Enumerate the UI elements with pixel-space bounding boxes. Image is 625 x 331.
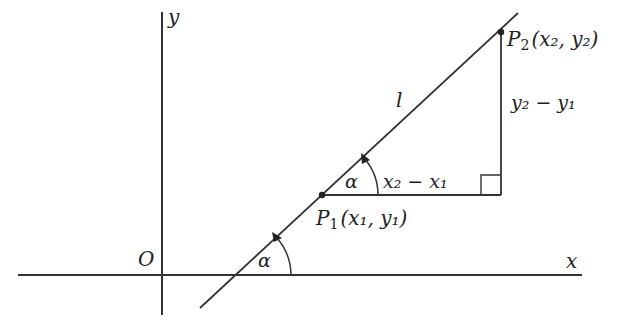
- vertical-leg-label: y₂ − y₁: [510, 91, 576, 113]
- angle-label-top: α: [345, 170, 358, 192]
- right-angle-marker: [481, 175, 501, 195]
- line-l: [200, 13, 518, 308]
- point-p1-label: P1(x₁, y₁): [315, 206, 407, 232]
- p2-subscript: 2: [520, 37, 529, 53]
- origin-label: O: [138, 247, 154, 271]
- p1-coords: (x₁, y₁): [340, 206, 407, 230]
- angle-arc-top: [364, 158, 378, 195]
- line-slope-diagram: y x O l α α x₂ − x₁ y₂ − y₁ P1(x₁, y₁) P…: [0, 0, 625, 331]
- p2-coords: (x₂, y₂): [531, 27, 598, 51]
- x-axis-label: x: [566, 249, 577, 273]
- p1-letter: P: [315, 206, 330, 230]
- angle-arc-bottom: [276, 237, 291, 275]
- point-p2: [498, 29, 504, 35]
- y-axis-label: y: [167, 5, 180, 29]
- point-p1: [319, 192, 325, 198]
- horizontal-leg-label: x₂ − x₁: [383, 170, 448, 192]
- p1-subscript: 1: [329, 216, 338, 232]
- point-p2-label: P2(x₂, y₂): [506, 27, 598, 53]
- line-label: l: [396, 88, 402, 112]
- p2-letter: P: [506, 27, 521, 51]
- angle-label-bottom: α: [258, 249, 271, 271]
